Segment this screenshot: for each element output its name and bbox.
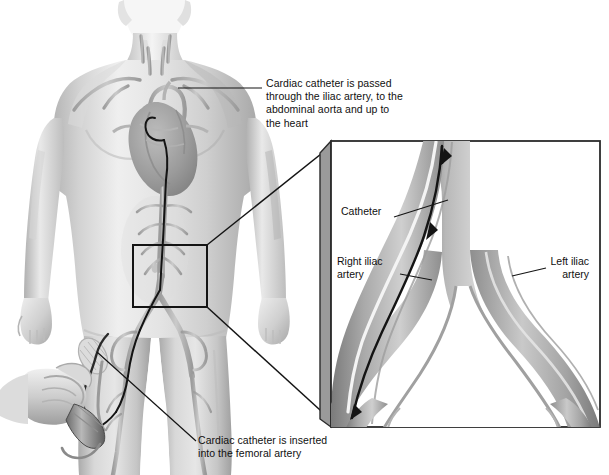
inset-label-right-iliac: Right iliac artery [337, 255, 399, 281]
panel-bevel [320, 141, 331, 427]
inset-label-catheter: Catheter [341, 205, 381, 218]
inset-panel [0, 0, 609, 475]
callout-femoral-text: Cardiac catheter is inserted into the fe… [198, 434, 398, 460]
inset-label-left-iliac: Left iliac artery [527, 255, 589, 281]
illustration-canvas: Cardiac catheter is passed through the i… [0, 0, 609, 475]
callout-heart-text: Cardiac catheter is passed through the i… [266, 77, 426, 130]
